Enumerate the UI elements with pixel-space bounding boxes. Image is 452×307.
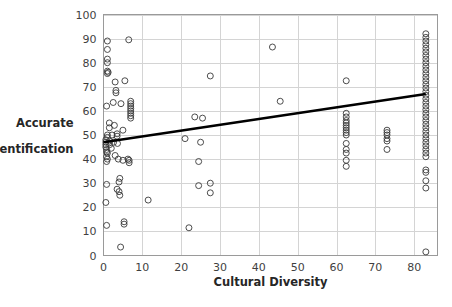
data-point <box>145 197 151 203</box>
data-point <box>277 98 283 104</box>
data-point <box>384 146 390 152</box>
x-tick-label: 20 <box>174 261 188 274</box>
data-point <box>269 44 275 50</box>
data-point <box>343 140 349 146</box>
y-tick-label: 30 <box>83 177 97 190</box>
data-point <box>104 222 110 228</box>
x-tick-label: 70 <box>368 261 382 274</box>
x-tick-label: 10 <box>135 261 149 274</box>
y-tick-label: 100 <box>76 9 97 22</box>
x-axis-title: Cultural Diversity <box>214 275 328 289</box>
scatter-chart-figure: 010203040506070809010001020304050607080C… <box>0 0 452 307</box>
y-tick-label: 20 <box>83 201 97 214</box>
data-point <box>343 150 349 156</box>
x-tick-label: 50 <box>291 261 305 274</box>
y-tick-label: 70 <box>83 81 97 94</box>
y-tick-label: 10 <box>83 225 97 238</box>
data-point <box>120 127 126 133</box>
data-point <box>423 185 429 191</box>
y-tick-label: 90 <box>83 33 97 46</box>
data-point <box>118 244 124 250</box>
y-tick-label: 0 <box>90 250 97 263</box>
chart-canvas: 010203040506070809010001020304050607080C… <box>0 0 452 307</box>
data-point <box>104 181 110 187</box>
data-points-group <box>103 31 429 255</box>
data-point <box>423 178 429 184</box>
data-point <box>182 136 188 142</box>
data-point <box>122 78 128 84</box>
x-tick-label: 60 <box>330 261 344 274</box>
y-axis-title-line2: Identification <box>0 142 74 156</box>
data-point <box>200 115 206 121</box>
data-point <box>343 78 349 84</box>
data-point <box>111 122 117 128</box>
data-point <box>104 38 110 44</box>
data-point <box>207 190 213 196</box>
y-axis-title-line1: Accurate <box>16 116 74 130</box>
data-point <box>198 139 204 145</box>
data-point <box>112 152 118 158</box>
data-point <box>423 154 429 160</box>
data-point <box>343 157 349 163</box>
data-point <box>343 163 349 169</box>
data-point <box>110 99 116 105</box>
figure-caption <box>0 297 452 307</box>
y-tick-label: 50 <box>83 129 97 142</box>
x-axis-tick-labels: 01020304050607080 <box>100 261 421 274</box>
data-point <box>117 192 123 198</box>
x-tick-label: 40 <box>252 261 266 274</box>
data-point <box>104 46 110 52</box>
data-point <box>423 249 429 255</box>
data-point <box>104 103 110 109</box>
data-point <box>207 73 213 79</box>
data-point <box>186 225 192 231</box>
x-tick-label: 80 <box>407 261 421 274</box>
data-point <box>116 179 122 185</box>
y-tick-label: 60 <box>83 105 97 118</box>
y-tick-label: 40 <box>83 153 97 166</box>
x-tick-label: 30 <box>213 261 227 274</box>
x-tick-label: 0 <box>100 261 107 274</box>
y-tick-label: 80 <box>83 57 97 70</box>
data-point <box>112 79 118 85</box>
data-point <box>104 60 110 66</box>
data-point <box>118 101 124 107</box>
data-point <box>192 114 198 120</box>
y-axis-tick-labels: 0102030405060708090100 <box>76 9 97 263</box>
